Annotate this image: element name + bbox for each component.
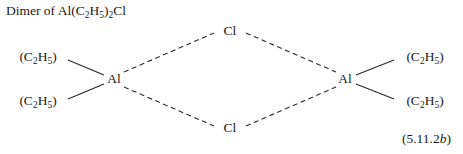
ethyl-sub-2: 5 — [47, 55, 52, 65]
atom-label-chlorine-bottom: Cl — [222, 121, 239, 135]
atom-label-chlorine-top: Cl — [222, 24, 239, 38]
ethyl-open: (C — [19, 93, 33, 108]
atom-label-aluminium-left: Al — [105, 72, 123, 86]
ethyl-group-top-right: (C2H5) — [406, 50, 443, 65]
ethyl-group-bottom-left: (C2H5) — [19, 94, 56, 109]
bond-al-right-ethyl-top — [356, 60, 394, 75]
equation-number: (5.11.2b) — [402, 131, 451, 146]
equation-number-roman: (5.11.2 — [402, 131, 440, 146]
ethyl-group-bottom-right: (C2H5) — [406, 94, 443, 109]
ethyl-mid: H — [425, 93, 435, 108]
bridge-al-left-cl-bottom — [124, 87, 214, 126]
ethyl-close: ) — [52, 49, 57, 64]
ethyl-open: (C — [19, 49, 33, 64]
ethyl-mid: H — [38, 49, 48, 64]
ethyl-open: (C — [406, 93, 420, 108]
ethyl-sub-1: 2 — [420, 55, 425, 65]
ethyl-close: ) — [439, 49, 444, 64]
equation-number-italic: b — [440, 131, 447, 146]
bridge-al-left-cl-top — [124, 33, 214, 72]
bridge-cl-bottom-al-right — [246, 87, 336, 126]
ethyl-sub-1: 2 — [33, 55, 38, 65]
ethyl-sub-1: 2 — [33, 99, 38, 109]
ethyl-sub-2: 5 — [434, 99, 439, 109]
bond-al-left-ethyl-top — [68, 60, 104, 75]
ethyl-close: ) — [52, 93, 57, 108]
ethyl-open: (C — [406, 49, 420, 64]
bond-al-right-ethyl-bottom — [356, 84, 394, 99]
ethyl-mid: H — [38, 93, 48, 108]
equation-number-close: ) — [447, 131, 452, 146]
ethyl-sub-1: 2 — [420, 99, 425, 109]
ethyl-sub-2: 5 — [434, 55, 439, 65]
ethyl-mid: H — [425, 49, 435, 64]
ethyl-sub-2: 5 — [47, 99, 52, 109]
figure-canvas: Dimer of Al(C2H5)2Cl (C2H5) (C2H5) (C2H5… — [0, 0, 463, 154]
ethyl-group-top-left: (C2H5) — [19, 50, 56, 65]
atom-label-aluminium-right: Al — [336, 72, 354, 86]
bond-al-left-ethyl-bottom — [68, 84, 104, 99]
ethyl-close: ) — [439, 93, 444, 108]
bridge-cl-top-al-right — [246, 33, 336, 72]
